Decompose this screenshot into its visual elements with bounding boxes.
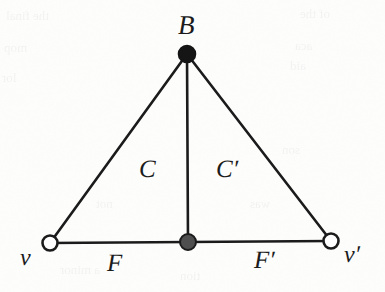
- node-B: [179, 46, 196, 63]
- figure-canvas: the finalmoplorof theacaaidsonwasnota mi…: [0, 0, 385, 292]
- label-apex-B: B: [178, 12, 195, 39]
- label-region-C-prime: C′: [216, 157, 238, 182]
- node-mid: [180, 234, 196, 250]
- edge-v-mid: [50, 242, 188, 243]
- node-v: [43, 236, 58, 251]
- label-region-C: C: [139, 157, 156, 182]
- triangle-cell-diagram: [0, 0, 385, 292]
- edges-group: [50, 54, 331, 243]
- label-vertex-v-prime: v′: [344, 243, 360, 267]
- edge-B-mid: [187, 54, 188, 242]
- nodes-group: [43, 46, 339, 251]
- edge-B-v-prime: [187, 54, 331, 241]
- label-vertex-v: v: [20, 246, 31, 270]
- edge-mid-v-prime: [188, 241, 331, 242]
- node-v-prime: [324, 234, 339, 249]
- edge-B-v: [50, 54, 187, 243]
- label-edge-F-prime: F′: [254, 248, 275, 273]
- label-edge-F: F: [107, 251, 122, 276]
